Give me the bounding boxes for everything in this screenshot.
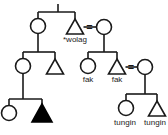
node-g2-female-spouse-right xyxy=(138,60,153,75)
node-g1-female-left xyxy=(31,19,46,34)
label-wolag: *wolag xyxy=(63,35,87,44)
label-fak-right: fak xyxy=(112,75,124,84)
node-g1-male-wolag xyxy=(67,19,84,34)
node-g2-female-fak xyxy=(81,59,96,74)
node-g2-female-left xyxy=(16,59,31,74)
label-fak-left: fak xyxy=(83,75,95,84)
node-g3-male-tungin xyxy=(149,101,166,116)
kinship-chart-canvas: *wolag = fak fak = xyxy=(0,0,168,135)
label-tungin-right: tungin xyxy=(144,118,166,127)
generation-1-descent-group xyxy=(38,4,75,19)
generation-3-left-descent-group xyxy=(9,74,42,107)
marriage-equals-fak: = xyxy=(128,61,134,73)
generation-2-left-descent-group xyxy=(23,34,55,60)
node-g2-male-fak xyxy=(109,59,126,74)
node-g3-female-tungin xyxy=(119,101,134,116)
generation-3-right-descent-group xyxy=(126,75,157,102)
node-g3-female-left xyxy=(2,106,17,121)
kinship-diagram: *wolag = fak fak = xyxy=(0,0,168,135)
node-g1-female-right xyxy=(97,20,112,35)
node-g2-male-left xyxy=(47,59,64,74)
node-g3-male-ego xyxy=(32,104,52,122)
marriage-equals-wolag: = xyxy=(86,21,92,33)
label-tungin-left: tungin xyxy=(114,118,136,127)
generation-2-right-descent-group xyxy=(88,35,117,60)
